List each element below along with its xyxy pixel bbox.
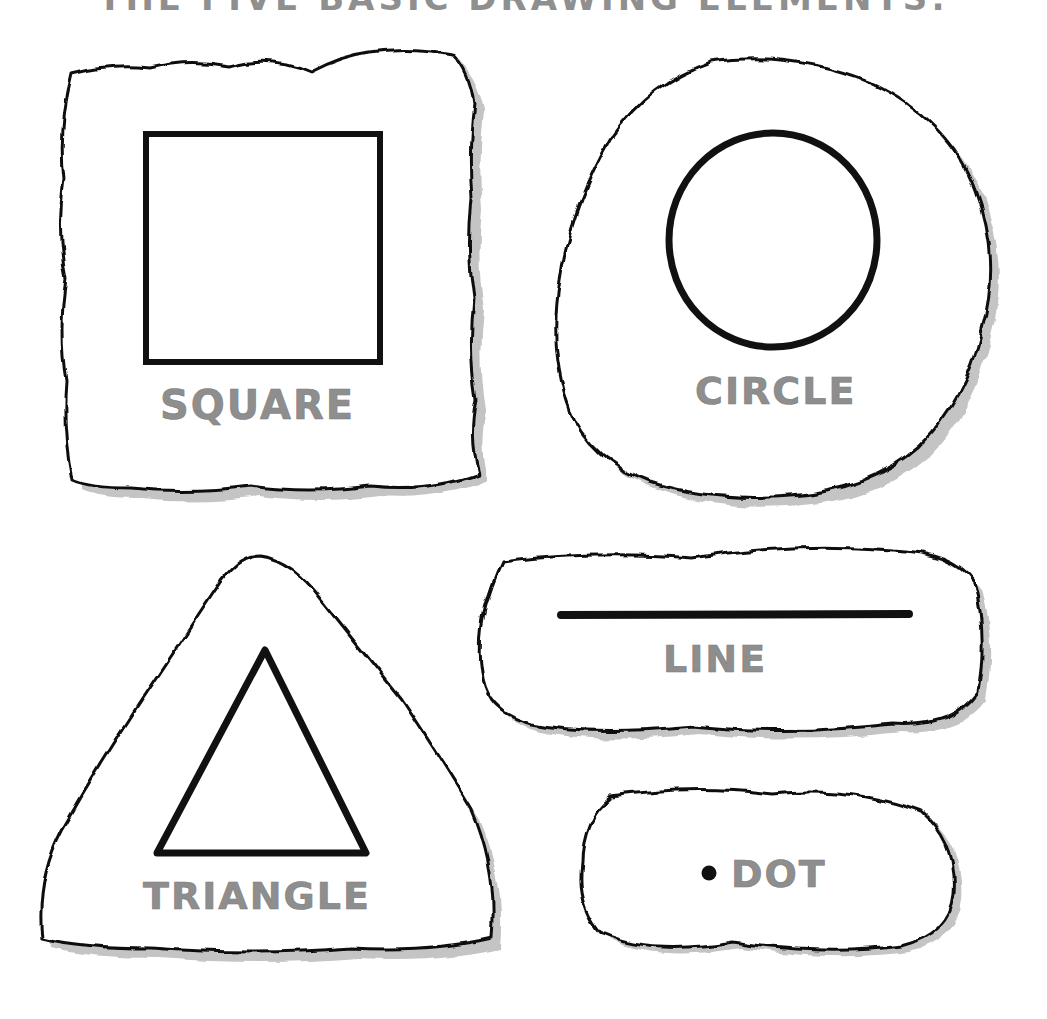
label-dot: DOT — [731, 855, 827, 893]
label-circle: CIRCLE — [695, 372, 856, 410]
label-square: SQUARE — [160, 385, 355, 425]
card-square — [60, 49, 488, 500]
dot-icon — [702, 866, 717, 881]
label-triangle: TRIANGLE — [143, 877, 371, 915]
card-circle — [556, 59, 999, 507]
card-outline — [556, 59, 991, 498]
label-line: LINE — [663, 640, 767, 678]
drawing-canvas — [0, 0, 1047, 1019]
line-icon — [561, 614, 909, 615]
